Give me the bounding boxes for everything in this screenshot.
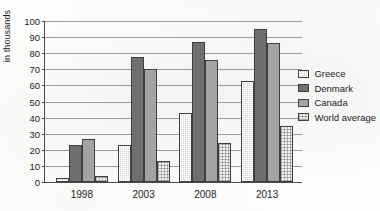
bar-greece-1998 bbox=[56, 178, 69, 182]
legend-swatch-icon bbox=[298, 70, 309, 78]
x-axis-tick-label: 2003 bbox=[133, 189, 155, 200]
legend-swatch-icon bbox=[298, 99, 309, 107]
legend-swatch-icon bbox=[298, 84, 309, 92]
legend-label: Greece bbox=[314, 68, 345, 79]
bar-canada-2013 bbox=[267, 43, 280, 182]
y-axis-tick-label: 80 bbox=[29, 48, 40, 59]
chart-legend: GreeceDenmarkCanadaWorld average bbox=[298, 68, 376, 123]
y-axis-tick-label: 30 bbox=[29, 128, 40, 139]
legend-item-world-average: World average bbox=[298, 112, 376, 123]
bar-canada-2008 bbox=[205, 60, 218, 182]
bar-canada-1998 bbox=[82, 139, 95, 182]
legend-item-greece: Greece bbox=[298, 68, 376, 79]
legend-label: World average bbox=[314, 112, 376, 123]
bar-canada-2003 bbox=[144, 69, 157, 182]
bar-groups: 1998200320082013 bbox=[45, 21, 302, 182]
y-axis-tick-label: 90 bbox=[29, 32, 40, 43]
bar-denmark-1998 bbox=[69, 145, 82, 182]
bar-group: 2003 bbox=[113, 21, 175, 182]
bar-chart-figure: in thousands 0102030405060708090100 1998… bbox=[0, 0, 380, 211]
bar-group: 2008 bbox=[175, 21, 237, 182]
legend-swatch-icon bbox=[298, 113, 309, 121]
bar-world-average-2008 bbox=[218, 143, 231, 182]
bar-denmark-2013 bbox=[254, 29, 267, 182]
bar-group: 2013 bbox=[236, 21, 298, 182]
x-axis-tick-label: 2008 bbox=[194, 189, 216, 200]
y-axis-tick-mark bbox=[42, 182, 46, 183]
bar-world-average-2013 bbox=[280, 126, 293, 182]
y-axis-tick-label: 60 bbox=[29, 80, 40, 91]
y-axis-tick-label: 70 bbox=[29, 64, 40, 75]
x-axis-tick-label: 1998 bbox=[71, 189, 93, 200]
bar-world-average-2003 bbox=[157, 161, 170, 182]
y-axis-title: in thousands bbox=[2, 0, 16, 84]
bar-greece-2003 bbox=[118, 145, 131, 182]
bar-greece-2008 bbox=[179, 113, 192, 182]
x-axis-tick-label: 2013 bbox=[256, 189, 278, 200]
y-axis-tick-label: 0 bbox=[35, 177, 40, 188]
y-axis-tick-label: 40 bbox=[29, 112, 40, 123]
legend-item-canada: Canada bbox=[298, 97, 376, 108]
y-axis-tick-label: 100 bbox=[24, 16, 40, 27]
bar-greece-2013 bbox=[241, 81, 254, 182]
bar-denmark-2008 bbox=[192, 42, 205, 182]
plot-area: 0102030405060708090100 1998200320082013 bbox=[44, 21, 302, 183]
bar-group: 1998 bbox=[51, 21, 113, 182]
bar-denmark-2003 bbox=[131, 57, 144, 182]
y-axis-tick-label: 50 bbox=[29, 96, 40, 107]
bar-world-average-1998 bbox=[95, 176, 108, 182]
y-axis-tick-label: 20 bbox=[29, 144, 40, 155]
legend-label: Denmark bbox=[314, 83, 353, 94]
y-axis-tick-label: 10 bbox=[29, 160, 40, 171]
legend-item-denmark: Denmark bbox=[298, 83, 376, 94]
legend-label: Canada bbox=[314, 97, 347, 108]
